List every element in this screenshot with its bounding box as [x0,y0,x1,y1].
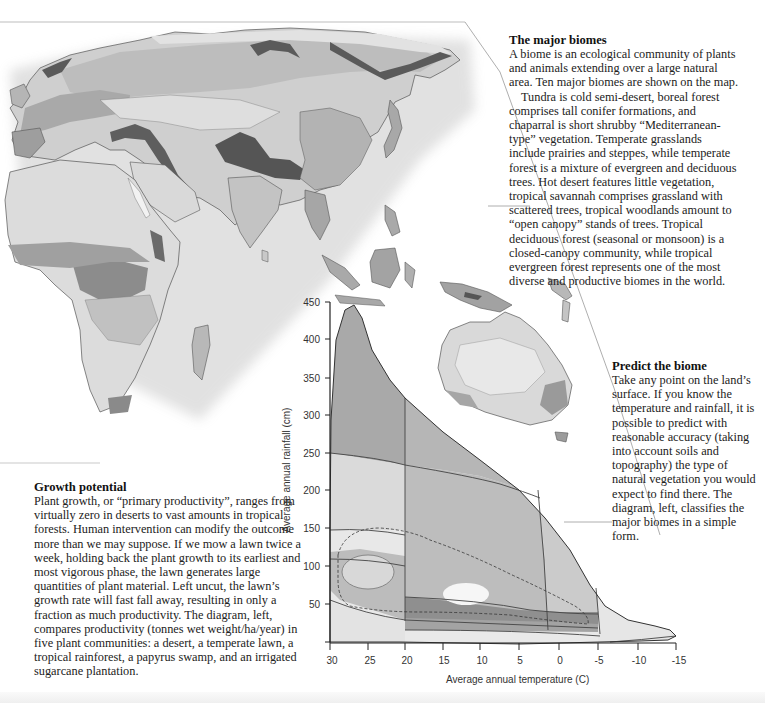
svg-text:450: 450 [303,297,320,308]
svg-text:-5: -5 [595,655,604,666]
x-axis-title: Average annual temperature (C) [446,674,589,685]
svg-text:100: 100 [303,561,320,572]
svg-text:30: 30 [326,655,338,666]
ellipse-temperate [443,583,489,605]
predict-biome-section: Predict the biome Take any point on the … [612,359,764,543]
svg-text:5: 5 [517,655,523,666]
y-axis-labels: 450 400 350 300 250 200 150 100 50 [303,297,320,610]
svg-text:-15: -15 [672,655,687,666]
svg-text:15: 15 [438,655,450,666]
predict-biome-body: Take any point on the land’s surface. If… [612,373,764,543]
svg-text:150: 150 [303,523,320,534]
svg-text:0: 0 [557,655,563,666]
svg-text:300: 300 [303,410,320,421]
major-biomes-heading: The major biomes [509,33,741,47]
svg-text:400: 400 [303,334,320,345]
page-bottom-edge [0,692,765,703]
y-axis-ticks [325,302,330,642]
major-biomes-section: The major biomes A biome is an ecologica… [509,33,741,288]
growth-potential-body: Plant growth, or “primary productivity”,… [34,494,302,679]
region-tropical-rainforest [320,290,405,465]
region-tropical-seasonal-forest [320,453,405,530]
svg-text:-10: -10 [632,655,647,666]
ellipse-tropical [342,555,394,589]
growth-potential-heading: Growth potential [34,480,302,494]
svg-text:20: 20 [401,655,413,666]
major-biomes-intro: A biome is an ecological community of pl… [509,47,741,90]
svg-text:10: 10 [476,655,488,666]
region-tundra [598,560,700,650]
x-axis-labels: 30 25 20 15 10 5 0 -5 -10 -15 [326,655,686,666]
svg-text:250: 250 [303,448,320,459]
svg-text:350: 350 [303,373,320,384]
svg-text:200: 200 [303,485,320,496]
svg-text:50: 50 [309,599,321,610]
growth-potential-section: Growth potential Plant growth, or “prima… [34,480,302,679]
major-biomes-body: Tundra is cold semi-desert, boreal fores… [509,90,741,289]
predict-biome-heading: Predict the biome [612,359,764,373]
region-boreal-forest [539,496,600,630]
svg-text:25: 25 [364,655,376,666]
